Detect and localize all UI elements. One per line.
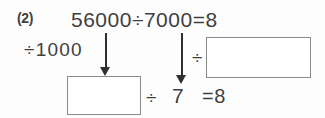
arrow-head bbox=[100, 67, 110, 76]
arrow-shaft bbox=[105, 33, 107, 68]
left-answer-box[interactable] bbox=[67, 76, 141, 115]
arrow-head bbox=[176, 75, 186, 84]
bottom-divisor-value: 7 bbox=[172, 85, 184, 106]
problem-number-label: (2) bbox=[17, 11, 33, 25]
divisor-annotation-label: ÷1000 bbox=[24, 40, 83, 59]
bottom-division-sign: ÷ bbox=[146, 88, 156, 107]
right-answer-box[interactable] bbox=[206, 37, 311, 78]
main-equation-text: 56000÷7000=8 bbox=[71, 9, 218, 30]
middle-division-sign: ÷ bbox=[192, 48, 202, 67]
down-arrow-icon-divisor bbox=[176, 33, 187, 84]
worksheet-problem-figure: (2) 56000÷7000=8 ÷1000 ÷ ÷ 7 =8 bbox=[0, 0, 325, 118]
bottom-result-text: =8 bbox=[202, 86, 226, 106]
down-arrow-icon-dividend bbox=[100, 33, 111, 76]
arrow-shaft bbox=[181, 33, 183, 76]
